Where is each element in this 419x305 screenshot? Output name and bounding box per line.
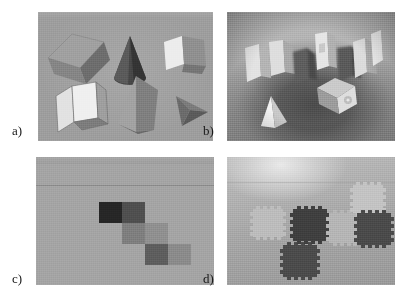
panel-c-rendered-tiles bbox=[36, 157, 214, 285]
panel-label-c: c) bbox=[12, 272, 22, 285]
panel-a-window-strip bbox=[38, 12, 213, 19]
tile-c-5 bbox=[145, 244, 168, 265]
figure-root: a) bbox=[0, 0, 419, 305]
panel-d-real-photo-tiles bbox=[227, 157, 395, 285]
panel-b-real-photo-blocks bbox=[227, 12, 395, 141]
tile-c-2 bbox=[122, 202, 145, 223]
shape-prism-bottom-center bbox=[114, 74, 168, 136]
tile-c-3 bbox=[122, 223, 145, 244]
panel-c-horizon-line bbox=[36, 185, 214, 186]
panel-label-b: b) bbox=[203, 124, 214, 137]
tile-c-1 bbox=[99, 202, 122, 223]
tile-d-6-dark bbox=[353, 209, 395, 251]
tile-d-1-light bbox=[249, 205, 289, 243]
shape-box-bottom-left bbox=[52, 78, 114, 136]
panel-label-d: d) bbox=[203, 272, 214, 285]
tile-d-2-dark bbox=[279, 241, 323, 283]
panel-label-a: a) bbox=[12, 124, 22, 137]
tile-c-4 bbox=[145, 223, 168, 244]
panel-a-rendered-shapes bbox=[38, 12, 213, 141]
panel-b-vignette bbox=[227, 12, 395, 141]
panel-c-window-strip bbox=[36, 157, 214, 164]
tile-c-6 bbox=[168, 244, 191, 265]
